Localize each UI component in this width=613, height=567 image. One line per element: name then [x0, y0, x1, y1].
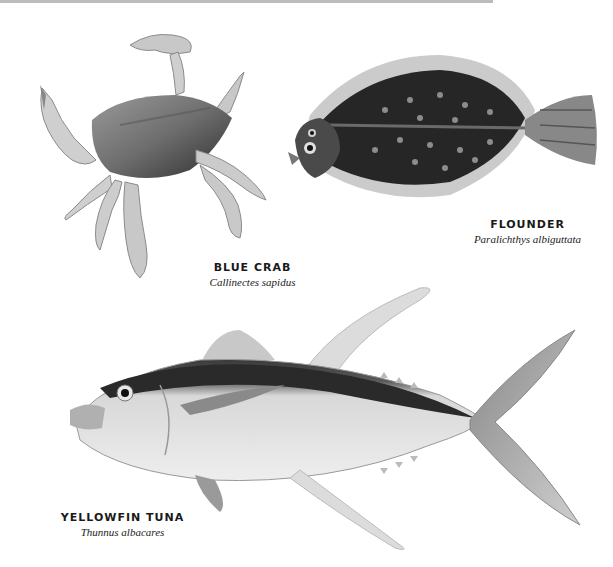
scientific-name: Callinectes sapidus — [195, 276, 310, 288]
blue-crab-label: BLUE CRAB Callinectes sapidus — [195, 261, 310, 288]
flounder-illustration — [288, 55, 597, 197]
scientific-name: Paralichthys albiguttata — [460, 233, 595, 245]
yellowfin-tuna-label: YELLOWFIN TUNA Thunnus albacares — [60, 511, 185, 538]
scientific-name: Thunnus albacares — [60, 526, 185, 538]
common-name: FLOUNDER — [460, 218, 595, 231]
common-name: YELLOWFIN TUNA — [60, 511, 185, 524]
blue-crab-illustration — [40, 34, 266, 278]
flounder-label: FLOUNDER Paralichthys albiguttata — [460, 218, 595, 245]
common-name: BLUE CRAB — [195, 261, 310, 274]
